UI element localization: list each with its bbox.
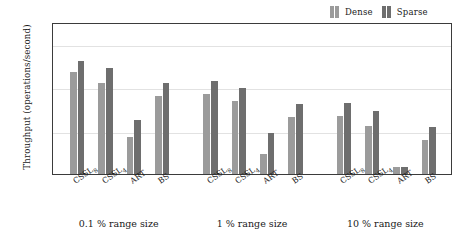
bar [344, 103, 351, 174]
y-axis-tick-mark [52, 133, 53, 134]
legend-label: Dense [345, 8, 373, 17]
group-caption: 1 % range size [192, 219, 312, 229]
gridline [53, 89, 451, 90]
bar [106, 68, 113, 174]
bar [429, 127, 436, 174]
group-caption: 0.1 % range size [59, 219, 179, 229]
gridline [53, 133, 451, 134]
legend-entry-dense: Dense [330, 6, 373, 18]
bar [373, 111, 380, 174]
bar [296, 104, 303, 174]
figure: DenseSparse Throughput (operations/secon… [0, 0, 464, 246]
legend-swatch-icon [330, 6, 341, 18]
legend-swatch-icon [382, 6, 393, 18]
y-axis-tick-mark [52, 46, 53, 47]
bar [70, 72, 77, 174]
gridline [53, 46, 451, 47]
y-axis-title: Throughput (operations/second) [22, 12, 32, 182]
bar [365, 126, 372, 174]
bar [260, 154, 267, 174]
bar [203, 94, 210, 174]
legend-entry-sparse: Sparse [382, 6, 428, 18]
chart-legend: DenseSparse [330, 6, 428, 18]
bar [211, 81, 218, 174]
bar [268, 133, 275, 174]
bar [155, 96, 162, 174]
bar [422, 140, 429, 174]
y-axis-tick-mark [52, 89, 53, 90]
bar [134, 120, 141, 174]
bar [288, 117, 295, 174]
bar [78, 61, 85, 174]
bar [98, 83, 105, 174]
bar [127, 137, 134, 174]
bar [239, 88, 246, 174]
bar [393, 167, 400, 174]
bar [232, 101, 239, 174]
plot-area: 100102104106 [52, 23, 452, 175]
legend-label: Sparse [397, 8, 428, 17]
group-caption: 10 % range size [325, 219, 445, 229]
bar [337, 116, 344, 174]
bar [163, 83, 170, 174]
